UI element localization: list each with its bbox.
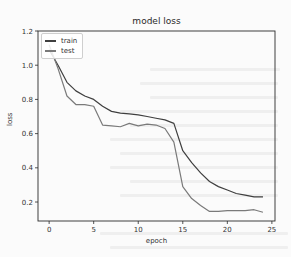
x-tick-label: 20 (223, 226, 232, 234)
legend-item-train: train (45, 36, 77, 46)
y-axis-label: loss (6, 112, 14, 126)
legend-label-test: test (61, 46, 74, 56)
x-tick-label: 10 (134, 226, 143, 234)
series-line-train (49, 50, 263, 197)
y-tick-label: 0.6 (22, 130, 34, 138)
y-tick-label: 1.0 (22, 62, 33, 70)
x-tick-label: 0 (47, 226, 51, 234)
legend-item-test: test (45, 46, 74, 56)
x-tick-label: 25 (267, 226, 276, 234)
y-tick-label: 0.2 (22, 199, 33, 207)
chart-legend: train test (41, 33, 83, 59)
y-tick-label: 1.2 (22, 28, 33, 36)
y-tick-label: 0.8 (22, 96, 33, 104)
x-tick-label: 5 (91, 226, 95, 234)
series-line-test (49, 45, 263, 213)
x-tick-label: 15 (178, 226, 187, 234)
x-axis-ticks: 0510152025 (47, 221, 276, 234)
axes-frame (38, 31, 275, 221)
y-axis-ticks: 0.20.40.60.81.01.2 (22, 28, 38, 207)
legend-swatch-test-icon (45, 50, 56, 51)
series-lines (49, 45, 263, 213)
x-axis-label: epoch (38, 237, 275, 245)
y-tick-label: 0.4 (22, 164, 34, 172)
legend-swatch-train-icon (45, 40, 56, 41)
loss-chart-figure: model loss 0510152025 0.20.40.60.81.01.2… (0, 0, 291, 257)
legend-label-train: train (61, 36, 77, 46)
